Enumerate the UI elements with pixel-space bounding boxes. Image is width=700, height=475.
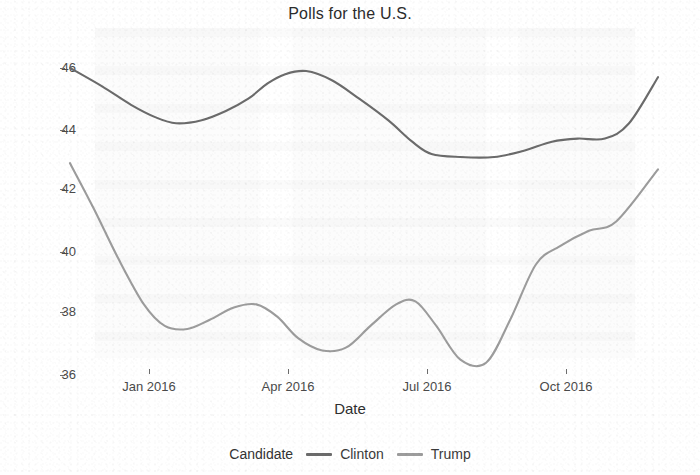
legend-entry-clinton[interactable]: Clinton bbox=[306, 446, 384, 462]
chart-legend: Candidate Clinton Trump bbox=[0, 446, 700, 462]
legend-label-clinton: Clinton bbox=[340, 446, 384, 462]
polls-line-chart: Polls for the U.S. 46 44 42 40 38 36 Jan… bbox=[0, 0, 700, 475]
legend-swatch-clinton bbox=[306, 453, 332, 456]
line-series-clinton bbox=[70, 68, 658, 158]
legend-label-trump: Trump bbox=[431, 446, 471, 462]
legend-entry-trump[interactable]: Trump bbox=[397, 446, 471, 462]
plot-area bbox=[0, 0, 700, 475]
legend-title: Candidate bbox=[229, 446, 293, 462]
legend-swatch-trump bbox=[397, 453, 423, 456]
line-series-trump bbox=[70, 163, 658, 366]
